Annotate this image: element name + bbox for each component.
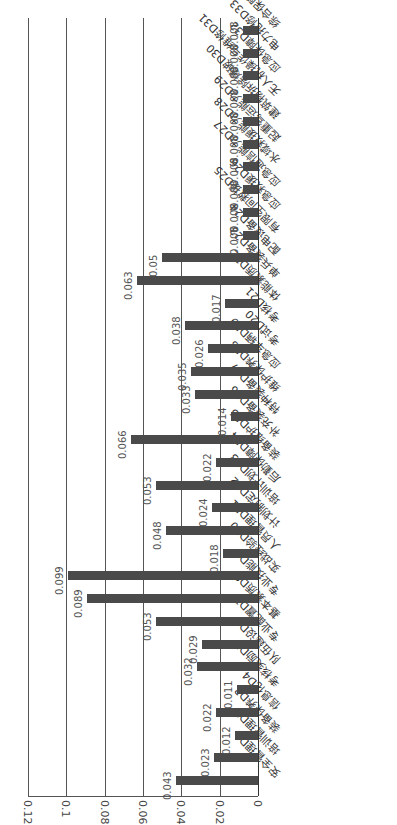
bar-22 [225,299,258,308]
gridline [143,18,144,796]
bar-value-label: 0.05 [148,255,159,277]
value-tick-label: 0.12 [21,800,34,825]
bar-value-label: 0.022 [202,703,213,732]
bar-value-label: 0.018 [209,544,220,573]
bar-value-label: 0.053 [142,612,153,641]
value-tick-label: 0.04 [174,800,187,825]
bar-value-label: 0.024 [198,498,209,527]
bar-value-label: 0.063 [123,271,134,300]
bar-19 [191,367,258,376]
value-tick-label: 0.1 [59,800,72,818]
bar-value-label: 0.026 [194,339,205,368]
gridline [66,18,67,796]
plot-frame-bottom [28,796,258,797]
bar-16 [131,435,258,444]
bar-7 [202,640,258,649]
bar-11 [223,549,258,558]
bar-value-label: 0.012 [221,726,232,755]
bar-31 [243,94,258,103]
bar-24 [162,253,258,262]
bar-value-label: 0.014 [217,407,228,436]
bar-6 [197,662,258,671]
gridline [28,18,29,796]
value-tick-label: 0.08 [98,800,111,825]
bar-9 [87,594,258,603]
bar-8 [156,617,258,626]
value-tick-label: 0.06 [136,800,149,825]
bar-33 [243,49,258,58]
bar-18 [195,390,258,399]
bar-12 [166,526,258,535]
bar-value-label: 0.011 [223,680,234,709]
bar-27 [243,185,258,194]
bar-value-label: 0.043 [162,771,173,800]
bar-14 [156,481,258,490]
bar-32 [243,71,258,80]
bar-17 [231,412,258,421]
bar-value-label: 0.022 [202,453,213,482]
bar-value-label: 0.029 [188,635,199,664]
bar-value-label: 0.053 [142,476,153,505]
bar-value-label: 0.089 [73,589,84,618]
bar-3 [235,731,258,740]
bar-15 [216,458,258,467]
bar-13 [212,503,258,512]
bar-23 [137,276,258,285]
bar-value-label: 0.008 [229,21,240,50]
bar-value-label: 0.017 [211,294,222,323]
bar-value-label: 0.099 [54,566,65,595]
bar-20 [208,344,258,353]
bar-4 [216,708,258,717]
bar-30 [243,117,258,126]
gridline [105,18,106,796]
bar-value-label: 0.038 [171,316,182,345]
bar-1 [176,776,258,785]
bar-28 [243,162,258,171]
bar-29 [243,140,258,149]
bar-25 [243,231,258,240]
bar-value-label: 0.035 [177,362,188,391]
bar-5 [237,685,258,694]
bar-value-label: 0.066 [117,430,128,459]
bar-value-label: 0.023 [200,748,211,777]
value-tick-label: 0.02 [213,800,226,825]
bar-26 [243,208,258,217]
value-tick-label: 0 [251,800,264,807]
bar-10 [68,571,258,580]
bar-value-label: 0.048 [152,521,163,550]
bar-34 [243,26,258,35]
